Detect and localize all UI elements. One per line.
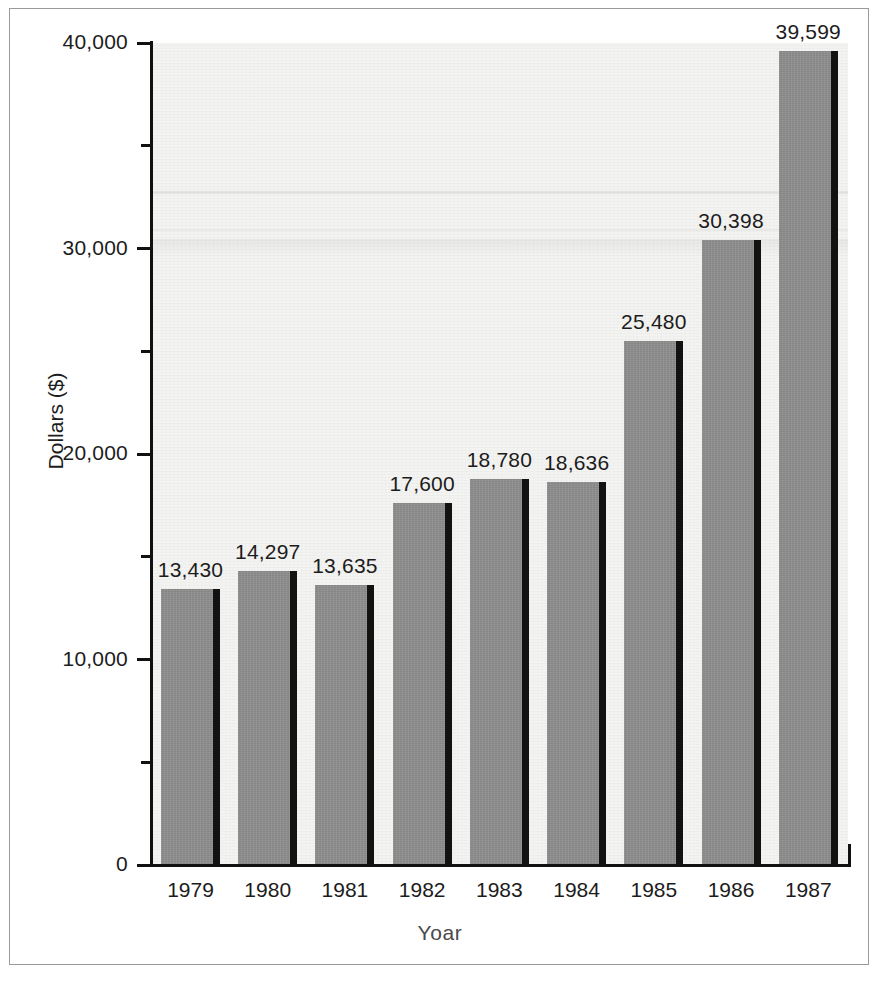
bar-value-label: 30,398 — [671, 209, 791, 233]
y-axis-tick — [137, 453, 150, 456]
bar-shadow — [367, 585, 374, 865]
bar — [315, 585, 367, 865]
y-axis-minor-tick — [141, 144, 150, 147]
bar-shadow — [445, 503, 452, 865]
y-axis-tick-label: 0 — [10, 852, 128, 876]
y-axis-title: Dollars ($) — [44, 321, 68, 521]
y-axis-minor-tick — [141, 761, 150, 764]
bar-value-label: 39,599 — [748, 20, 868, 44]
bar-shadow — [522, 479, 529, 865]
bar-value-label: 13,635 — [285, 554, 405, 578]
y-axis-tick — [137, 658, 150, 661]
bar — [470, 479, 522, 865]
y-axis-tick — [137, 864, 150, 867]
x-axis-tick-label: 1987 — [758, 878, 858, 902]
bar-value-label: 18,636 — [517, 451, 637, 475]
y-axis-minor-tick — [141, 350, 150, 353]
bar — [238, 571, 290, 865]
x-axis-end-tick — [848, 844, 851, 867]
x-axis-line — [150, 864, 851, 867]
y-axis-tick — [137, 247, 150, 250]
y-axis-tick-label: 20,000 — [10, 441, 128, 465]
bar — [779, 51, 831, 865]
bar — [161, 589, 213, 865]
bar-shadow — [290, 571, 297, 865]
bar-shadow — [831, 51, 838, 865]
y-axis-tick — [137, 42, 150, 45]
scan-artifact-band — [153, 191, 848, 194]
bar — [547, 482, 599, 865]
bar-shadow — [213, 589, 220, 865]
bar-shadow — [676, 341, 683, 865]
bar-shadow — [754, 240, 761, 865]
bar-value-label: 17,600 — [362, 472, 482, 496]
y-axis-tick-label: 40,000 — [10, 30, 128, 54]
x-axis-title: Yoar — [10, 921, 869, 945]
y-axis-line — [150, 41, 153, 867]
y-axis-tick-label: 10,000 — [10, 647, 128, 671]
chart-figure: 010,00020,00030,00040,000 Dollars ($) 19… — [9, 8, 869, 965]
bar — [624, 341, 676, 865]
y-axis-tick-label: 30,000 — [10, 236, 128, 260]
bar-shadow — [599, 482, 606, 865]
bar-value-label: 25,480 — [594, 310, 714, 334]
